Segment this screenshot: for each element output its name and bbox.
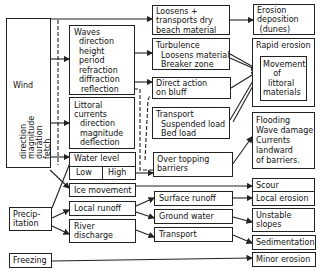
precipitation-label: Precip- itation bbox=[13, 210, 40, 229]
transport-box: Transport bbox=[154, 227, 233, 242]
waves-item: refraction bbox=[79, 66, 118, 75]
transport-label: Transport bbox=[159, 230, 197, 239]
transport-load-title: Transport bbox=[156, 110, 194, 119]
ice-movement-label: Ice movement bbox=[74, 186, 132, 195]
wind-param-fetch: fetch bbox=[43, 139, 52, 159]
rapid-erosion-box: Rapid erosion Movement of littoral mater… bbox=[252, 38, 315, 107]
surface-runoff-box: Surface runoff bbox=[154, 191, 233, 206]
littoral-title: Littoral currents bbox=[74, 101, 107, 120]
waves-box: Waves direction height period refraction… bbox=[69, 25, 135, 95]
flooding-label: Flooding Wave damage Currents landward o… bbox=[256, 116, 313, 166]
freezing-box: Freezing bbox=[9, 253, 52, 268]
local-erosion-box: Local erosion bbox=[252, 191, 315, 206]
ice-movement-box: Ice movement bbox=[69, 183, 136, 197]
direct-action-box: Direct action on bluff bbox=[152, 77, 231, 99]
erosion-deposition-box: Erosion deposition (dunes) bbox=[253, 4, 315, 35]
coastal-processes-flow-diagram: Wind direction magnitude duration fetch … bbox=[0, 0, 320, 277]
river-discharge-label: River discharge bbox=[74, 222, 113, 241]
surface-runoff-label: Surface runoff bbox=[159, 194, 216, 203]
sedimentation-box: Sedimentation bbox=[252, 235, 316, 250]
minor-erosion-box: Minor erosion bbox=[252, 252, 316, 267]
ground-water-box: Ground water bbox=[154, 209, 233, 224]
local-runoff-box: Local runoff bbox=[69, 201, 136, 216]
river-discharge-box: River discharge bbox=[69, 219, 136, 243]
overtopping-label: Over topping barriers bbox=[157, 155, 209, 174]
water-level-title: Water level bbox=[74, 154, 119, 163]
transport-load-item: Suspended load bbox=[161, 120, 225, 129]
loosens-transports-box: Loosens + transports dry beach material bbox=[152, 5, 230, 35]
erosion-deposition-label: Erosion deposition (dunes) bbox=[257, 6, 299, 34]
transport-load-item: Bed load bbox=[161, 129, 196, 138]
local-runoff-label: Local runoff bbox=[74, 204, 121, 213]
loosens-transports-label: Loosens + transports dry beach material bbox=[156, 7, 216, 35]
flooding-box: Flooding Wave damage Currents landward o… bbox=[252, 112, 315, 169]
movement-littoral-label: Movement of littoral materials bbox=[263, 60, 305, 97]
water-level-high: High bbox=[108, 168, 126, 177]
turbulence-item: Breaker zone bbox=[161, 60, 214, 69]
rapid-erosion-label: Rapid erosion bbox=[256, 41, 311, 50]
sedimentation-label: Sedimentation bbox=[256, 238, 314, 247]
local-erosion-label: Local erosion bbox=[256, 194, 309, 203]
waves-item: direction bbox=[79, 37, 114, 46]
transport-load-box: Transport Suspended load Bed load bbox=[152, 107, 230, 139]
freezing-label: Freezing bbox=[13, 256, 47, 265]
unstable-slopes-label: Unstable slopes bbox=[256, 211, 291, 230]
turbulence-box: Turbulence Loosens material Breaker zone bbox=[152, 38, 230, 70]
waves-title: Waves bbox=[74, 28, 100, 37]
overtopping-box: Over topping barriers bbox=[153, 152, 233, 177]
waves-item: period bbox=[79, 56, 104, 65]
water-level-low: Low bbox=[76, 168, 92, 177]
littoral-item: direction bbox=[80, 119, 115, 128]
scour-label: Scour bbox=[256, 181, 279, 190]
wind-box: Wind direction magnitude duration fetch bbox=[6, 18, 51, 168]
littoral-item: magnitude bbox=[80, 129, 123, 138]
waves-item: diffraction bbox=[79, 75, 120, 84]
unstable-slopes-box: Unstable slopes bbox=[252, 208, 315, 232]
ground-water-label: Ground water bbox=[159, 212, 214, 221]
littoral-item: deflection bbox=[80, 138, 120, 147]
littoral-currents-box: Littoral currents direction magnitude de… bbox=[69, 97, 135, 149]
divider bbox=[102, 166, 103, 179]
precipitation-box: Precip- itation bbox=[9, 207, 52, 231]
turbulence-title: Turbulence bbox=[156, 41, 200, 50]
turbulence-item: Loosens material bbox=[161, 51, 229, 60]
waves-item: height bbox=[79, 47, 105, 56]
minor-erosion-label: Minor erosion bbox=[256, 255, 310, 264]
wind-label: Wind bbox=[13, 81, 33, 90]
waves-item: reflection bbox=[81, 85, 119, 94]
direct-action-label: Direct action on bluff bbox=[156, 79, 207, 98]
movement-littoral-box: Movement of littoral materials bbox=[260, 56, 307, 101]
water-level-box: Water level Low High bbox=[69, 152, 136, 180]
